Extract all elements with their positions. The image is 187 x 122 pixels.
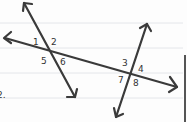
angle-label-1: 1 (33, 37, 39, 47)
angle-label-5: 5 (41, 56, 47, 66)
angle-label-3: 3 (122, 58, 128, 68)
transversal-1 (24, 3, 75, 97)
angle-label-4: 4 (138, 64, 144, 74)
angle-label-6: 6 (60, 57, 66, 67)
angle-label-7: 7 (118, 75, 124, 85)
diagram-canvas: 1 2 5 6 3 4 7 8 2. (0, 0, 187, 122)
angle-label-2: 2 (51, 37, 57, 47)
angle-label-8: 8 (133, 78, 139, 88)
arrowhead-left-icon (4, 32, 11, 43)
ruled-lines (0, 23, 183, 98)
angles-diagram: 1 2 5 6 3 4 7 8 2. (0, 0, 187, 122)
problem-number: 2. (0, 90, 6, 100)
main-line (5, 38, 177, 87)
